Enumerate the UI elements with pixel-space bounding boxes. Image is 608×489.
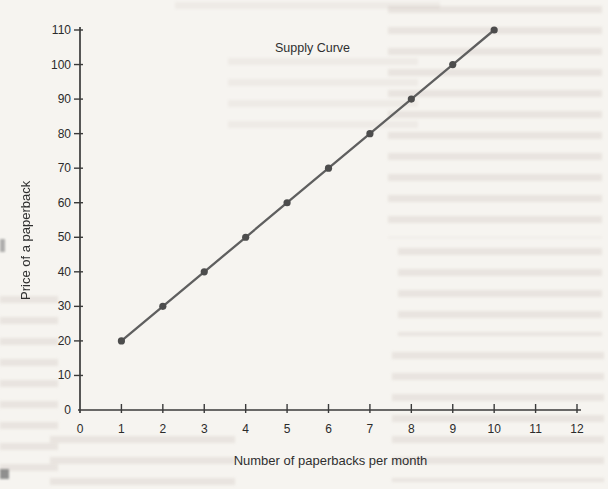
x-tick-label: 7 [367, 422, 374, 436]
data-point [449, 61, 456, 68]
x-tick-label: 8 [408, 422, 415, 436]
data-point [159, 303, 166, 310]
y-tick-label: 100 [51, 58, 71, 72]
y-tick-label: 80 [58, 127, 72, 141]
data-point [242, 234, 249, 241]
y-tick-label: 30 [58, 299, 72, 313]
x-tick-label: 9 [449, 422, 456, 436]
x-tick-label: 5 [284, 422, 291, 436]
data-point [201, 268, 208, 275]
x-tick-label: 1 [118, 422, 125, 436]
data-point [118, 337, 125, 344]
data-point [366, 130, 373, 137]
y-tick-label: 70 [58, 161, 72, 175]
x-tick-label: 6 [325, 422, 332, 436]
y-tick-label: 50 [58, 230, 72, 244]
data-point [408, 95, 415, 102]
y-tick-label: 60 [58, 196, 72, 210]
x-tick-label: 4 [242, 422, 249, 436]
supply-line [121, 30, 494, 341]
chart-title: Supply Curve [240, 41, 385, 55]
x-tick-label: 10 [487, 422, 501, 436]
data-point [491, 26, 498, 33]
y-tick-label: 10 [58, 368, 72, 382]
data-point [283, 199, 290, 206]
x-tick-label: 0 [77, 422, 84, 436]
x-tick-label: 12 [570, 422, 584, 436]
y-tick-label: 90 [58, 92, 72, 106]
x-axis-title: Number of paperbacks per month [228, 453, 433, 468]
x-tick-label: 2 [159, 422, 166, 436]
x-tick-label: 3 [201, 422, 208, 436]
scanned-page: Supply Curve Price of a paperback Number… [0, 0, 608, 489]
x-tick-label: 11 [529, 422, 542, 436]
supply-curve-chart: 0123456789101112010203040506070809010011… [0, 0, 608, 489]
y-tick-label: 0 [64, 403, 71, 417]
data-point [325, 165, 332, 172]
y-tick-label: 40 [58, 265, 72, 279]
y-axis-title: Price of a paperback [18, 140, 33, 300]
y-tick-label: 20 [58, 334, 72, 348]
y-tick-label: 110 [52, 23, 71, 37]
